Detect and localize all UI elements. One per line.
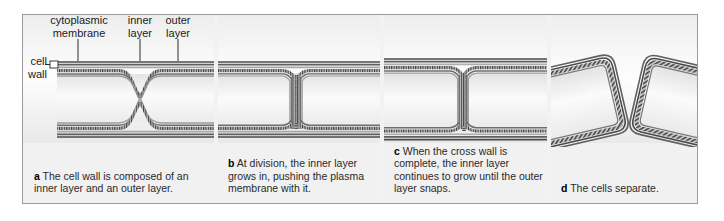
panel-a-caption: a The cell wall is composed of an inner … xyxy=(34,170,210,195)
panel-b-wall-drawing xyxy=(218,15,380,145)
panel-b-caption-text: At division, the inner layer grows in, p… xyxy=(228,157,364,194)
label-cytoplasmic-membrane: cytoplasmic membrane xyxy=(33,15,125,39)
panel-a-caption-text: The cell wall is composed of an inner la… xyxy=(34,170,188,195)
panel-b-letter: b xyxy=(228,157,234,169)
panel-c-caption-text: When the cross wall is complete, the inn… xyxy=(394,145,543,195)
panel-d-caption: d The cells separate. xyxy=(561,182,698,195)
cell-division-figure: cell wall cytoplasmic membrane inner lay… xyxy=(22,14,698,204)
label-cell-wall: cell wall xyxy=(23,55,47,80)
panel-b-caption: b At division, the inner layer grows in,… xyxy=(228,157,380,195)
panel-c: c When the cross wall is complete, the i… xyxy=(384,15,547,203)
panel-c-letter: c xyxy=(394,145,400,157)
panel-c-wall-drawing xyxy=(384,15,547,145)
label-outer-layer: outer layer xyxy=(157,15,199,39)
panel-d-wall-drawing xyxy=(551,15,698,147)
label-inner-layer: inner layer xyxy=(119,15,161,39)
panel-d-letter: d xyxy=(561,182,567,194)
panel-d-caption-text: The cells separate. xyxy=(570,182,659,194)
panel-d: d The cells separate. xyxy=(551,15,698,203)
panel-c-caption: c When the cross wall is complete, the i… xyxy=(394,145,546,195)
panel-a-letter: a xyxy=(34,170,40,182)
panel-a: cell wall cytoplasmic membrane inner lay… xyxy=(23,15,214,203)
panel-b: b At division, the inner layer grows in,… xyxy=(218,15,380,203)
